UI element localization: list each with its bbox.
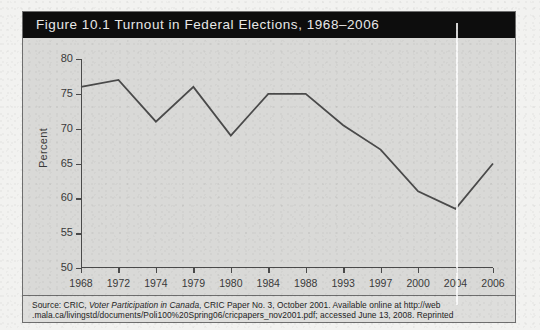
x-tick-label: 1980 [219, 277, 242, 289]
source-line-2: .mala.ca/livingstd/documents/Poli100%20S… [32, 310, 509, 320]
y-tick-label: 80 [43, 52, 73, 64]
y-tick-label: 50 [43, 261, 73, 273]
chart-plot-region: Percent 50556065707580 19681972197419791… [23, 38, 515, 297]
x-tick [231, 268, 232, 273]
x-tick-label: 2004 [444, 277, 467, 289]
chart-axes: 50556065707580 1968197219741979198019841… [81, 59, 493, 268]
y-tick-label: 70 [43, 122, 73, 134]
x-tick-label: 1972 [107, 277, 130, 289]
figure-source-block: Source: CRIC, Voter Participation in Can… [23, 295, 515, 322]
x-tick-label: 1988 [294, 277, 317, 289]
x-tick-label: 1984 [257, 277, 280, 289]
source-line-1: Source: CRIC, Voter Participation in Can… [32, 300, 509, 310]
x-tick-label: 2006 [481, 277, 504, 289]
x-tick [81, 268, 82, 273]
y-tick-label: 65 [43, 157, 73, 169]
x-tick [381, 268, 382, 273]
figure-title-bar: Figure 10.1 Turnout in Federal Elections… [23, 12, 515, 38]
y-tick-label: 75 [43, 87, 73, 99]
figure-container: Figure 10.1 Turnout in Federal Elections… [22, 11, 516, 323]
source-title-italic: Voter Participation in Canada [89, 300, 199, 310]
source-suffix: , CRIC Paper No. 3, October 2001. Availa… [199, 300, 440, 310]
x-tick [456, 268, 457, 273]
y-axis-title: Percent [37, 108, 49, 188]
x-tick-label: 2000 [406, 277, 429, 289]
turnout-line-series [81, 59, 493, 268]
x-tick [268, 268, 269, 273]
x-tick-label: 1974 [144, 277, 167, 289]
x-tick-label: 1979 [182, 277, 205, 289]
x-tick [156, 268, 157, 273]
x-tick [343, 268, 344, 273]
x-tick-label: 1993 [331, 277, 354, 289]
y-tick-label: 60 [43, 191, 73, 203]
x-tick [493, 268, 494, 273]
source-prefix: Source: CRIC, [32, 300, 89, 310]
figure-title: Figure 10.1 Turnout in Federal Elections… [36, 17, 379, 32]
y-tick-label: 55 [43, 226, 73, 238]
x-tick [118, 268, 119, 273]
x-tick [193, 268, 194, 273]
x-tick [306, 268, 307, 273]
x-tick-label: 1997 [369, 277, 392, 289]
x-tick-label: 1968 [69, 277, 92, 289]
x-tick [418, 268, 419, 273]
